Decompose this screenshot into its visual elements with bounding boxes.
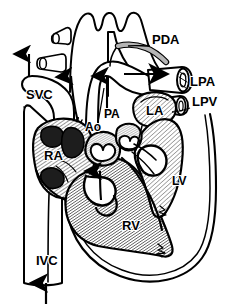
ra-opening-svc [41,126,64,147]
label-rv: RV [122,218,140,233]
aortic-branch-stump-upper-lumen [53,34,59,44]
label-pa: PA [104,107,120,121]
ra-opening-fossa [62,128,84,158]
label-lpa: LPA [190,74,216,89]
label-svc: SVC [26,87,53,102]
lpv-lumen-inner [179,101,183,111]
label-lpv: LPV [192,94,218,109]
aortic-branch-stump-lower-lumen [40,58,47,69]
rv-inflow-arrow [100,171,101,200]
label-ra: RA [44,148,63,163]
heart-anatomy-figure: PDA LPA LPV SVC IVC Ao PA LA LV RA RV [0,0,226,307]
label-la: LA [146,103,164,118]
label-pda: PDA [152,32,180,47]
label-ao: Ao [85,120,101,134]
label-ivc: IVC [36,253,58,268]
label-lv: LV [172,174,186,188]
